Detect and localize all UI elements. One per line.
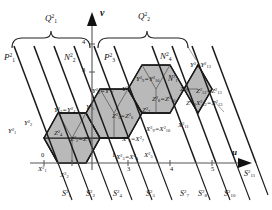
- label-x2: X22: [60, 172, 69, 179]
- label-y5: Y25: [86, 104, 94, 111]
- label-x12-x13: X212=X213: [196, 100, 222, 107]
- label-x6-x7: X26=X27: [122, 136, 144, 143]
- region-label-n4: N24: [160, 52, 172, 61]
- u-tick-3: 3: [127, 166, 130, 173]
- label-s7: S27: [180, 190, 189, 198]
- u-tick-1: 1: [112, 152, 115, 159]
- brace-q2: [98, 31, 188, 48]
- u-tick-5: 5: [211, 166, 214, 173]
- label-y8: Y28: [122, 86, 130, 93]
- label-s2: S22: [86, 190, 95, 198]
- label-x3-x4: X23=X24: [116, 154, 138, 161]
- label-s5: S25: [146, 190, 155, 198]
- region-label-p1: P21: [4, 53, 15, 62]
- label-y9-y10: Y29=Y210: [136, 76, 159, 83]
- label-z5-z6: Z25=Z26: [112, 113, 133, 120]
- label-y2: Y22: [24, 120, 32, 127]
- label-z8-z10: Z28=Z210: [152, 96, 175, 103]
- v-tick-3: 3: [82, 67, 85, 74]
- label-z7: Z27: [142, 107, 150, 114]
- label-y12-y13: Y212Y213: [190, 62, 211, 69]
- label-x11: X211: [178, 122, 189, 129]
- label-z4: Z24: [54, 130, 62, 137]
- region-label-n1: N21: [168, 75, 178, 83]
- u-axis-arrowhead: [238, 158, 252, 168]
- axis-label-u: u: [232, 148, 237, 157]
- label-y6-y7: Y26=Y27: [92, 88, 113, 95]
- label-z11: Z211: [186, 100, 196, 107]
- brace-label-q2: Q22: [138, 12, 150, 21]
- label-s10: S210: [224, 190, 235, 198]
- v-tick-4: 4: [82, 39, 85, 46]
- label-s4: S24: [113, 190, 122, 198]
- u-tick-4: 4: [170, 166, 173, 173]
- label-x9-x10: X29=X210: [146, 126, 170, 133]
- label-s1: S21: [62, 190, 71, 198]
- v-axis-arrowhead: [87, 12, 97, 26]
- label-x5: X25: [144, 152, 153, 159]
- figure-canvas: Q21 Q22 v u 4 3 0 1 3 4 5 P21 N22 P23 N2…: [0, 0, 272, 210]
- axis-label-v: v: [100, 8, 104, 18]
- label-z9: Z29: [180, 86, 188, 93]
- brace-q1: [12, 31, 90, 48]
- lattice-diagram-svg: [0, 0, 272, 210]
- label-y1: Y21: [8, 128, 16, 135]
- brace-label-q1: Q21: [45, 14, 57, 23]
- label-z2-z3: Z22=Z23: [70, 136, 91, 143]
- u-tick-0: 0: [41, 152, 44, 159]
- region-label-p3: P23: [104, 53, 115, 62]
- label-z12-z13: Z212=Z213: [196, 88, 222, 95]
- label-s11: S211: [244, 170, 255, 178]
- label-y3-y4: Y23=Y24: [54, 107, 75, 114]
- label-x1: X21: [38, 166, 47, 173]
- region-label-n2: N22: [64, 53, 76, 62]
- label-s8: S28: [198, 190, 207, 198]
